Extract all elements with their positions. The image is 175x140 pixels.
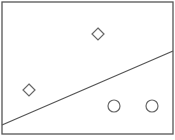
classifier-diagram (0, 0, 175, 140)
circle-marker (108, 100, 120, 112)
class-b-circles (108, 100, 158, 112)
circle-marker (146, 100, 158, 112)
diamond-marker (23, 84, 35, 96)
decision-boundary-line (2, 51, 173, 125)
diamond-marker (92, 28, 104, 40)
